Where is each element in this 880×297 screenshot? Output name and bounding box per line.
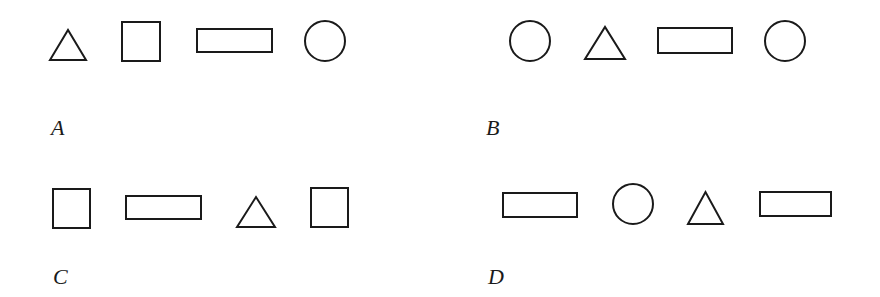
- group-d-rectangle-icon-2: [760, 192, 831, 216]
- group-d-circle-icon: [613, 184, 653, 224]
- group-a-circle-icon: [305, 21, 345, 61]
- group-b-label: B: [486, 117, 499, 139]
- group-b-circle-icon: [510, 21, 550, 61]
- group-a-triangle-icon: [50, 30, 86, 60]
- group-c-label: C: [53, 266, 68, 288]
- group-d-label: D: [488, 266, 504, 288]
- group-d-rectangle-icon: [503, 193, 577, 217]
- group-c-shapes: [53, 188, 348, 228]
- group-b-circle-icon-2: [765, 21, 805, 61]
- group-a-shapes: [50, 21, 345, 61]
- group-c-square-icon: [53, 189, 90, 228]
- group-a-label: A: [51, 117, 64, 139]
- group-c-rectangle-icon: [126, 196, 201, 219]
- group-a-rectangle-icon: [197, 29, 272, 52]
- shape-sequences-diagram: [0, 0, 880, 297]
- group-a-square-icon: [122, 22, 160, 61]
- group-b-rectangle-icon: [658, 28, 732, 53]
- group-d-shapes: [503, 184, 831, 224]
- group-b-shapes: [510, 21, 805, 61]
- group-d-triangle-icon: [688, 192, 723, 224]
- group-c-square-icon-2: [311, 188, 348, 227]
- group-b-triangle-icon: [585, 27, 625, 59]
- group-c-triangle-icon: [237, 197, 275, 227]
